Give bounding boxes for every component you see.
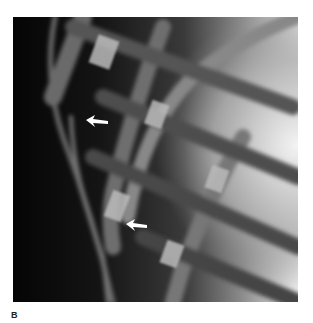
radiograph-image — [13, 17, 298, 302]
panel-label: B — [11, 310, 18, 320]
